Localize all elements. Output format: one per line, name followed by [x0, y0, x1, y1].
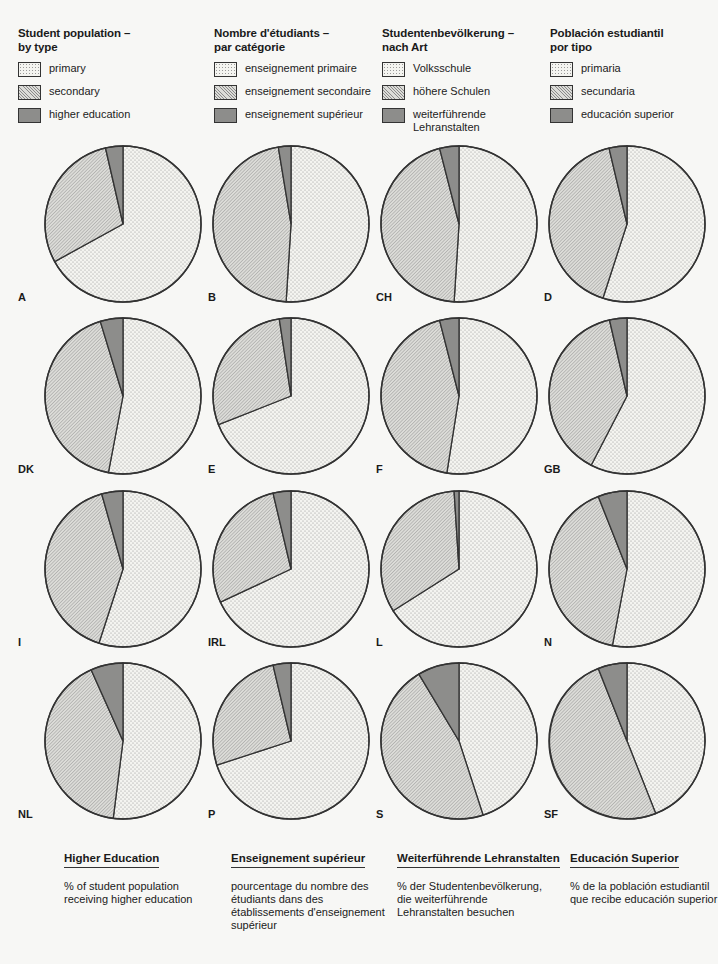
legend-item-secondary: enseignement secondaire [214, 85, 379, 108]
pie-label: N [544, 636, 552, 648]
pie-label: DK [18, 463, 34, 475]
legend-spanish: Población estudiantil por tipo primaria … [550, 26, 715, 131]
footer-title: Educación Superior [570, 852, 679, 868]
pie-label: P [208, 808, 215, 820]
legend-item-primary: enseignement primaire [214, 62, 379, 85]
pie-chart-ch: CH [378, 143, 540, 305]
footer-description: % of student population receiving higher… [64, 880, 192, 906]
pie-slice-secondary [213, 147, 291, 302]
higher-swatch-icon [382, 108, 405, 123]
pie-label: IRL [208, 636, 226, 648]
secondary-swatch-icon [382, 85, 405, 100]
legend-item-higher: enseignement supérieur [214, 108, 379, 131]
pie-label: NL [18, 808, 33, 820]
legend-item-higher: higher education [18, 108, 183, 131]
legend-item-secondary: secundaria [550, 85, 715, 108]
pie-label: SF [544, 808, 558, 820]
footer-title: Weiterführende Lehranstalten [397, 852, 560, 868]
footer-spanish: Educación Superior % de la población est… [570, 848, 717, 906]
pie-chart-d: D [546, 143, 708, 305]
footer-german: Weiterführende Lehranstalten % der Stude… [397, 848, 560, 919]
legend-title: Nombre d'étudiants – par catégorie [214, 26, 379, 54]
pie-chart-dk: DK [42, 315, 204, 477]
legend-item-secondary: höhere Schulen [382, 85, 547, 108]
primary-swatch-icon [382, 62, 405, 77]
pie-chart-p: P [210, 660, 372, 822]
pie-slice-primary [113, 663, 201, 819]
legend-item-higher: educación superior [550, 108, 715, 131]
pie-chart-e: E [210, 315, 372, 477]
legend-french: Nombre d'étudiants – par catégorie ensei… [214, 26, 379, 131]
pie-label: CH [376, 291, 392, 303]
legend-item-primary: primary [18, 62, 183, 85]
pie-label: GB [544, 463, 561, 475]
pie-chart-b: B [210, 143, 372, 305]
pie-chart-sf: SF [546, 660, 708, 822]
pie-slice-primary [447, 318, 537, 474]
pie-chart-f: F [378, 315, 540, 477]
primary-swatch-icon [214, 62, 237, 77]
footer-english: Higher Education % of student population… [64, 848, 192, 906]
pie-label: B [208, 291, 216, 303]
legend-item-primary: primaria [550, 62, 715, 85]
legend-title: Studentenbevölkerung – nach Art [382, 26, 547, 54]
higher-swatch-icon [550, 108, 573, 123]
pie-chart-nl: NL [42, 660, 204, 822]
legend-item-primary: Volksschule [382, 62, 547, 85]
pie-chart-l: L [378, 488, 540, 650]
pie-label: L [376, 636, 383, 648]
pie-chart-gb: GB [546, 315, 708, 477]
footer-title: Enseignement supérieur [231, 852, 365, 868]
legend-german: Studentenbevölkerung – nach Art Volkssch… [382, 26, 547, 131]
footer-french: Enseignement supérieur pourcentage du no… [231, 848, 385, 932]
primary-swatch-icon [550, 62, 573, 77]
legend-item-secondary: secondary [18, 85, 183, 108]
footer-description: pourcentage du nombre des étudiants dans… [231, 880, 385, 932]
pie-label: A [18, 291, 26, 303]
higher-swatch-icon [214, 108, 237, 123]
secondary-swatch-icon [214, 85, 237, 100]
pie-slice-primary [454, 146, 537, 302]
secondary-swatch-icon [550, 85, 573, 100]
pie-chart-s: S [378, 660, 540, 822]
pie-label: E [208, 463, 215, 475]
footer-description: % de la población estudiantil que recibe… [570, 880, 717, 906]
legend-item-higher: weiterführende Lehranstalten [382, 108, 547, 131]
primary-swatch-icon [18, 62, 41, 77]
pie-chart-i: I [42, 488, 204, 650]
higher-swatch-icon [18, 108, 41, 123]
footer-title: Higher Education [64, 852, 159, 868]
pie-chart-a: A [42, 143, 204, 305]
legend-title: Student population – by type [18, 26, 183, 54]
pie-slice-primary [286, 146, 369, 302]
footer-description: % der Studentenbevölkerung, die weiterfü… [397, 880, 560, 919]
pie-chart-n: N [546, 488, 708, 650]
pie-label: I [18, 636, 21, 648]
pie-chart-irl: IRL [210, 488, 372, 650]
pie-label: F [376, 463, 383, 475]
legend-english: Student population – by type primary sec… [18, 26, 183, 131]
secondary-swatch-icon [18, 85, 41, 100]
legend-title: Población estudiantil por tipo [550, 26, 715, 54]
pie-label: S [376, 808, 383, 820]
pie-label: D [544, 291, 552, 303]
